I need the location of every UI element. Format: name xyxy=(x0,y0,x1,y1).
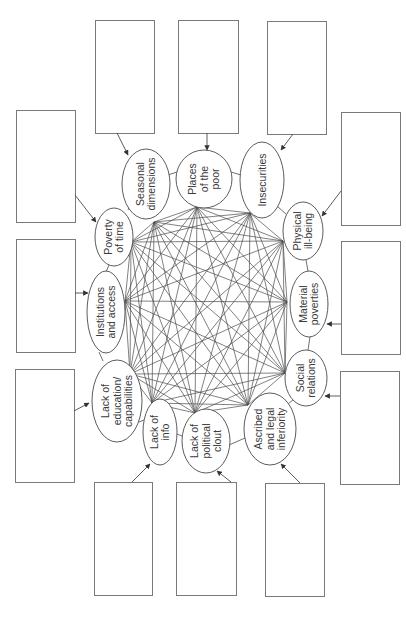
arrow-icon xyxy=(132,464,150,482)
link-seasonal-info xyxy=(152,222,154,403)
arrow-icon xyxy=(75,195,96,222)
box-right-3[interactable] xyxy=(325,372,400,485)
node-time[interactable]: Povertyof time xyxy=(95,208,133,266)
arrow-icon xyxy=(322,191,341,216)
link-social-institutions xyxy=(125,301,285,373)
node-education[interactable]: Lack ofeducation/capabilities xyxy=(92,360,142,442)
annotation-box[interactable] xyxy=(95,483,153,596)
ring-link xyxy=(308,337,310,350)
node-seasonal[interactable]: Seasonaldimensions xyxy=(122,149,170,219)
interconnection-web xyxy=(125,207,287,413)
node-info[interactable]: Lack ofinfo xyxy=(143,399,177,465)
node-places[interactable]: Placesof thepoor xyxy=(176,150,232,208)
node-social[interactable]: Socialrelations xyxy=(285,350,327,406)
arrow-icon xyxy=(281,134,293,150)
box-left-2[interactable] xyxy=(17,240,89,353)
link-insecurities-material xyxy=(250,213,287,302)
link-seasonal-insecurities xyxy=(154,213,250,222)
link-places-material xyxy=(197,207,287,302)
annotation-box[interactable] xyxy=(266,484,325,597)
arrow-icon xyxy=(281,464,300,483)
box-bottom-2[interactable] xyxy=(177,471,237,596)
annotation-box[interactable] xyxy=(17,240,76,353)
ring-link xyxy=(231,172,241,175)
ring-link xyxy=(139,420,144,422)
link-places-political xyxy=(195,207,197,413)
arrow-icon xyxy=(217,471,231,482)
link-social-education xyxy=(130,373,285,374)
node-political[interactable]: Lack ofpoliticalclout xyxy=(182,409,230,473)
link-seasonal-ascribed xyxy=(154,222,248,405)
node-institutions[interactable]: Institutionsand access xyxy=(87,271,125,353)
link-insecurities-social xyxy=(250,213,285,373)
box-bottom-1[interactable] xyxy=(95,464,153,596)
link-education-time xyxy=(130,242,131,374)
link-seasonal-political xyxy=(154,222,195,413)
node-label: Institutionsand access xyxy=(94,285,118,338)
box-top-2[interactable] xyxy=(179,21,239,151)
link-seasonal-social xyxy=(154,222,285,373)
node-physical[interactable]: Physicalill-being xyxy=(283,202,323,260)
node-label: Insecurities xyxy=(256,153,268,206)
link-material-institutions xyxy=(125,301,287,302)
diagram-svg: SeasonaldimensionsPlacesof thepoorInsecu… xyxy=(0,0,406,628)
node-label: Seasonaldimensions xyxy=(134,157,158,210)
ring-link xyxy=(277,206,286,214)
annotation-box[interactable] xyxy=(16,370,75,483)
annotation-box[interactable] xyxy=(342,242,401,355)
box-left-1[interactable] xyxy=(17,111,97,223)
ring-link xyxy=(229,438,245,445)
annotation-box[interactable] xyxy=(341,372,400,485)
node-label: Povertyof time xyxy=(102,218,126,254)
arrow-icon xyxy=(117,133,128,155)
annotation-box[interactable] xyxy=(342,113,401,226)
box-bottom-3[interactable] xyxy=(266,464,325,597)
link-physical-institutions xyxy=(125,241,283,301)
link-ascribed-education xyxy=(130,374,248,405)
node-ascribed[interactable]: Ascribedand legalinferiority xyxy=(244,393,296,465)
annotation-box[interactable] xyxy=(268,22,327,135)
box-top-3[interactable] xyxy=(268,22,327,151)
annotation-box[interactable] xyxy=(17,111,76,223)
ring-link xyxy=(306,260,308,271)
box-left-3[interactable] xyxy=(16,370,90,483)
annotation-box[interactable] xyxy=(177,483,237,596)
box-right-2[interactable] xyxy=(327,242,401,355)
link-material-social xyxy=(285,302,287,373)
node-label: Ascribedand legalinferiority xyxy=(252,407,287,450)
annotation-boxes xyxy=(16,21,401,597)
node-insecurities[interactable]: Insecurities xyxy=(240,142,284,218)
node-label: Materialpoverties xyxy=(297,283,321,326)
ring-link xyxy=(177,434,182,436)
node-material[interactable]: Materialpoverties xyxy=(290,271,328,337)
box-top-1[interactable] xyxy=(96,21,155,156)
annotation-box[interactable] xyxy=(179,21,239,134)
link-ascribed-time xyxy=(131,242,248,405)
arrow-icon xyxy=(74,403,89,411)
poverty-dimensions-diagram: SeasonaldimensionsPlacesof thepoorInsecu… xyxy=(0,0,406,628)
annotation-box[interactable] xyxy=(96,21,155,134)
node-label: Socialrelations xyxy=(294,358,318,398)
box-right-1[interactable] xyxy=(322,113,401,226)
ring-link xyxy=(99,352,103,361)
node-label: Physicalill-being xyxy=(291,211,315,250)
link-places-ascribed xyxy=(197,207,248,405)
